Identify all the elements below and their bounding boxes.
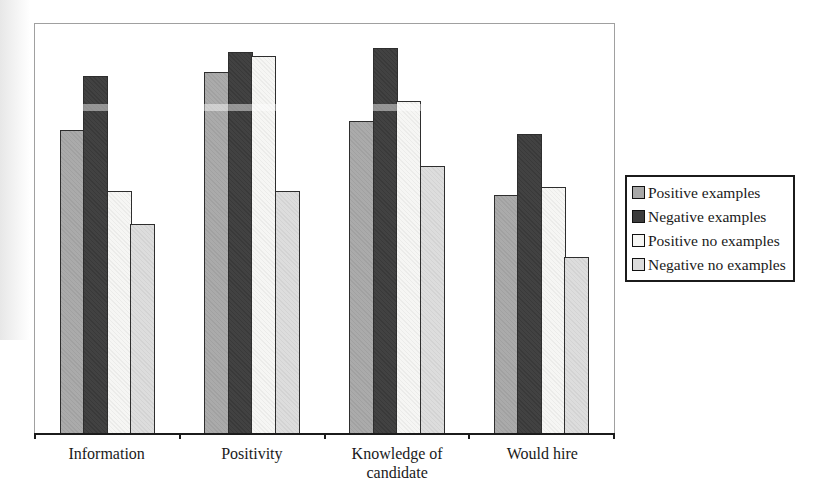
bar-negative-no-examples-knowledge-of-candidate bbox=[420, 166, 445, 433]
bar-negative-no-examples-information bbox=[130, 224, 155, 433]
legend-swatch-positive-no-examples bbox=[632, 234, 645, 247]
legend: Positive examplesNegative examplesPositi… bbox=[625, 175, 795, 282]
bar-positive-no-examples-information bbox=[107, 191, 132, 433]
bar-chart-figure: InformationPositivityKnowledge of candid… bbox=[0, 0, 824, 500]
bar-positive-no-examples-would-hire bbox=[541, 187, 566, 433]
bar-group-knowledge-of-candidate bbox=[325, 24, 470, 433]
bar-positive-no-examples-positivity bbox=[251, 56, 276, 433]
bar-negative-examples-positivity bbox=[228, 52, 253, 433]
x-axis-tick bbox=[324, 433, 326, 439]
bar-group-positivity bbox=[180, 24, 325, 433]
bar-group-would-hire bbox=[469, 24, 614, 433]
bar-negative-examples-would-hire bbox=[517, 134, 542, 433]
category-label-information: Information bbox=[34, 444, 179, 482]
bar-positive-no-examples-knowledge-of-candidate bbox=[396, 101, 421, 433]
legend-swatch-positive-examples bbox=[632, 186, 645, 199]
x-axis-tick bbox=[613, 433, 615, 439]
legend-swatch-negative-examples bbox=[632, 210, 645, 223]
legend-item-negative-no-examples: Negative no examples bbox=[632, 255, 788, 274]
bar-negative-examples-knowledge-of-candidate bbox=[373, 48, 398, 433]
bar-groups-container bbox=[35, 24, 614, 433]
bar-positive-examples-knowledge-of-candidate bbox=[349, 121, 374, 433]
legend-item-positive-no-examples: Positive no examples bbox=[632, 231, 788, 250]
x-axis-tick bbox=[468, 433, 470, 439]
bar-positive-examples-information bbox=[60, 130, 85, 433]
legend-label: Negative no examples bbox=[648, 255, 786, 274]
legend-item-positive-examples: Positive examples bbox=[632, 183, 788, 202]
x-axis-tick bbox=[179, 433, 181, 439]
bar-positive-examples-would-hire bbox=[494, 195, 519, 433]
bar-negative-no-examples-positivity bbox=[275, 191, 300, 433]
category-axis-labels: InformationPositivityKnowledge of candid… bbox=[34, 444, 615, 482]
legend-label: Positive examples bbox=[648, 183, 760, 202]
category-label-would-hire: Would hire bbox=[470, 444, 615, 482]
bar-negative-no-examples-would-hire bbox=[564, 257, 589, 433]
legend-item-negative-examples: Negative examples bbox=[632, 207, 788, 226]
bar-negative-examples-information bbox=[83, 76, 108, 433]
legend-label: Positive no examples bbox=[648, 231, 780, 250]
legend-label: Negative examples bbox=[648, 207, 766, 226]
x-axis-tick bbox=[34, 433, 36, 439]
scan-shade-artifact bbox=[0, 0, 30, 340]
category-label-knowledge-of-candidate: Knowledge of candidate bbox=[325, 444, 470, 482]
plot-area bbox=[34, 23, 615, 435]
legend-swatch-negative-no-examples bbox=[632, 258, 645, 271]
category-label-positivity: Positivity bbox=[179, 444, 324, 482]
bar-positive-examples-positivity bbox=[204, 72, 229, 433]
bar-group-information bbox=[35, 24, 180, 433]
